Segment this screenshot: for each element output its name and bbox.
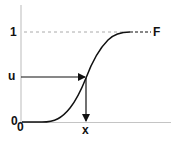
y-axis-label-u: u: [8, 70, 15, 82]
curve-label-f: F: [153, 26, 160, 38]
x-axis-label-zero: 0: [17, 121, 24, 133]
cdf-diagram: 1 u 0 0 x F: [0, 0, 176, 145]
y-axis-label-one: 1: [10, 26, 17, 38]
x-axis-label-x: x: [82, 124, 89, 136]
